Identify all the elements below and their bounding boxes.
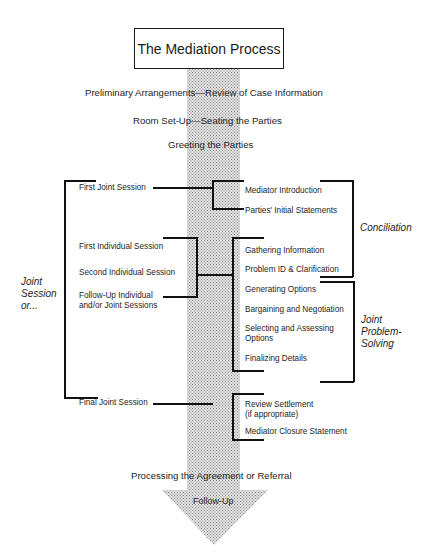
diagram-title: The Mediation Process	[137, 41, 280, 57]
step-mediator-introduction: Mediator Introduction	[245, 186, 322, 196]
conciliation-bracket-bottom	[320, 276, 353, 278]
session-second-individual: Second Individual Session	[79, 268, 175, 278]
session-first-individual: First Individual Session	[79, 242, 163, 252]
step-bargaining-negotiation: Bargaining and Negotiation	[245, 305, 344, 315]
step-problem-id-clarification: Problem ID & Clarification	[245, 265, 339, 275]
step-selecting-assessing-options: Selecting and Assessing Options	[245, 324, 334, 344]
step-finalizing-details: Finalizing Details	[245, 354, 307, 364]
session-follow-up: Follow-Up Individual and/or Joint Sessio…	[79, 291, 157, 311]
stage-follow-up: Follow-Up	[193, 495, 234, 507]
individual-steps-top	[232, 237, 264, 239]
stage-greeting: Greeting the Parties	[168, 139, 253, 151]
first-joint-connector	[153, 187, 213, 189]
final-joint-steps-vertical	[232, 393, 234, 440]
step-review-settlement: Review Settlement (if appropriate)	[245, 400, 313, 420]
first-joint-steps-vertical	[212, 180, 214, 209]
joint-session-or-label: Joint Session or...	[21, 276, 61, 312]
stage-preliminary-arrangements: Preliminary Arrangements—Review of Case …	[85, 87, 323, 99]
individual-bracket-crossbar	[196, 274, 233, 276]
first-joint-steps-top	[212, 180, 244, 182]
individual-bracket-top	[163, 237, 197, 239]
step-generating-options: Generating Options	[245, 285, 316, 295]
problem-solving-bracket-top	[320, 281, 354, 283]
individual-bracket-bottom	[163, 296, 197, 298]
session-first-joint: First Joint Session	[79, 183, 146, 193]
diagram-title-box: The Mediation Process	[134, 28, 284, 69]
first-joint-steps-bottom	[212, 208, 244, 210]
individual-steps-vertical	[232, 237, 234, 371]
problem-solving-bracket-bottom	[320, 381, 354, 383]
step-gathering-information: Gathering Information	[245, 246, 324, 256]
step-mediator-closure-statement: Mediator Closure Statement	[245, 427, 347, 437]
step-parties-initial-statements: Parties' Initial Statements	[245, 206, 337, 216]
final-joint-steps-top	[232, 393, 264, 395]
stage-processing-agreement: Processing the Agreement or Referral	[131, 470, 292, 482]
individual-steps-bottom	[232, 370, 264, 372]
left-bracket-vertical	[64, 180, 66, 398]
phase-joint-problem-solving: Joint Problem- Solving	[361, 314, 421, 350]
phase-conciliation: Conciliation	[360, 222, 412, 234]
conciliation-bracket-top	[320, 180, 353, 182]
session-final-joint: Final Joint Session	[79, 398, 148, 408]
stage-room-setup: Room Set-Up—Seating the Parties	[133, 115, 282, 127]
individual-bracket-vertical	[196, 237, 198, 298]
conciliation-bracket-vertical	[352, 180, 354, 277]
final-joint-connector	[153, 403, 213, 405]
problem-solving-bracket-vertical	[353, 281, 355, 382]
left-bracket-top	[64, 180, 96, 182]
final-joint-steps-bottom	[232, 439, 264, 441]
